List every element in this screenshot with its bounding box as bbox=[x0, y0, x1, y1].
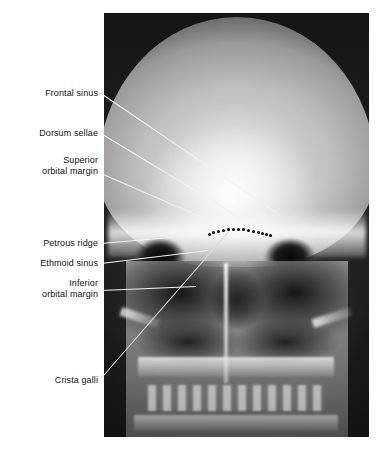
label-petrous-ridge: Petrous ridge bbox=[18, 238, 98, 249]
petrous-ridge-dot-11 bbox=[257, 231, 260, 234]
petrous-ridge-dot-4 bbox=[222, 229, 225, 232]
label-ethmoid-sinus: Ethmoid sinus bbox=[18, 258, 98, 269]
label-superior-orbital-margin: Superior orbital margin bbox=[13, 155, 98, 177]
petrous-ridge-dot-1 bbox=[208, 233, 211, 236]
label-inferior-orbital-margin: Inferior orbital margin bbox=[13, 278, 98, 300]
petrous-ridge-dot-14 bbox=[269, 234, 272, 237]
skull-radiograph bbox=[104, 13, 369, 437]
figure-container: Frontal sinusDorsum sellaeSuperior orbit… bbox=[0, 0, 382, 451]
petrous-ridge-dot-13 bbox=[265, 233, 268, 236]
petrous-ridge-dot-9 bbox=[247, 229, 250, 232]
petrous-ridge-dot-3 bbox=[217, 230, 220, 233]
petrous-ridge-dot-2 bbox=[212, 231, 215, 234]
label-frontal-sinus: Frontal sinus bbox=[20, 88, 98, 99]
mandible-band bbox=[134, 415, 338, 431]
petrous-ridge-dot-7 bbox=[237, 228, 240, 231]
label-dorsum-sellae: Dorsum sellae bbox=[13, 128, 98, 139]
teeth-band bbox=[148, 385, 324, 411]
label-crista-galli: Crista galli bbox=[28, 375, 98, 386]
petrous-ridge-dot-12 bbox=[261, 232, 264, 235]
petrous-ridge-dot-6 bbox=[232, 228, 235, 231]
petrous-ridge-dot-8 bbox=[242, 228, 245, 231]
maxilla-band bbox=[138, 357, 334, 377]
petrous-ridge-dot-10 bbox=[252, 230, 255, 233]
